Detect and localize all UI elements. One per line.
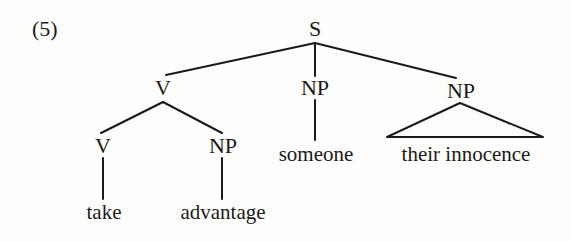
leaf-their-innocence: their innocence [402,144,531,165]
node-s: S [309,18,321,40]
node-np-middle: NP [301,77,329,99]
branch-v-np [163,102,222,133]
document-page: (5) S V NP NP V NP take advantage someon… [0,0,571,241]
leaf-advantage: advantage [180,202,265,223]
branch-v-v [101,102,163,133]
leaf-take: take [87,202,122,223]
leaf-someone: someone [279,144,354,165]
node-v-upper: V [155,77,171,99]
node-v-lower: V [95,135,111,157]
branch-s-np-right [315,43,456,78]
node-np-lower: NP [209,135,237,157]
node-np-right: NP [447,80,475,102]
triangle-np-their-innocence [387,103,543,137]
branch-s-v [166,43,315,75]
